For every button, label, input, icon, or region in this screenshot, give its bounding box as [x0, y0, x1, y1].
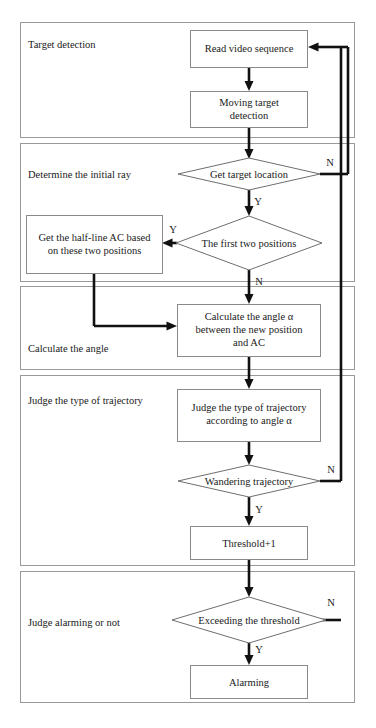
node-label-wandering-trajectory: Wandering trajectory — [205, 476, 294, 487]
branch-label-first-two-positions-no: N — [255, 276, 263, 287]
node-label-half-line-ac-line2: on these two positions — [48, 245, 142, 256]
group-label-calculate-angle: Calculate the angle — [28, 343, 109, 354]
node-label-calculate-angle-line3: and AC — [233, 337, 265, 348]
node-label-calculate-angle-line1: Calculate the angle α — [205, 311, 294, 322]
node-label-exceeding-threshold: Exceeding the threshold — [198, 615, 300, 626]
arrowhead-first-two-positions — [245, 206, 254, 216]
arrowhead-judge-type-trajectory — [245, 379, 254, 389]
node-label-judge-type-trajectory-line1: Judge the type of trajectory — [192, 402, 308, 413]
node-label-alarming: Alarming — [229, 677, 270, 688]
group-label-judge-type-trajectory: Judge the type of trajectory — [28, 395, 144, 406]
arrowhead-read-video-sequence — [308, 43, 319, 52]
node-label-read-video-sequence: Read video sequence — [205, 43, 294, 54]
node-label-moving-target-detection-line1: Moving target — [219, 97, 279, 108]
node-label-calculate-angle-line2: between the new position — [195, 324, 303, 335]
arrowhead-calculate-angle-left — [167, 322, 178, 331]
flowchart-page: Target detection Determine the initial r… — [0, 0, 376, 728]
arrowhead-wandering-trajectory — [245, 455, 254, 465]
arrowhead-alarming — [245, 655, 254, 665]
arrowhead-calculate-angle-top — [245, 294, 254, 304]
branch-label-exceeding-yes: Y — [255, 644, 263, 655]
node-label-judge-type-trajectory-line2: according to angle α — [206, 415, 292, 426]
node-label-first-two-positions: The first two positions — [202, 238, 297, 249]
branch-label-wandering-no: N — [327, 464, 335, 475]
group-label-target-detection: Target detection — [28, 39, 96, 50]
branch-label-get-target-location-yes: Y — [254, 196, 262, 207]
flowchart-svg: Target detection Determine the initial r… — [0, 0, 376, 728]
group-label-determine-initial-ray: Determine the initial ray — [28, 169, 132, 180]
node-label-threshold-plus-one: Threshold+1 — [222, 538, 276, 549]
arrowhead-threshold-plus-one — [245, 516, 254, 526]
branch-label-wandering-yes: Y — [255, 504, 263, 515]
node-label-half-line-ac-line1: Get the half-line AC based — [39, 232, 152, 243]
branch-label-exceeding-no: N — [327, 597, 335, 608]
arrowhead-half-line-ac — [162, 239, 173, 248]
branch-label-first-two-positions-yes: Y — [169, 224, 177, 235]
branch-label-get-target-location-no: N — [326, 157, 334, 168]
arrowhead-exceeding-threshold — [245, 587, 254, 597]
arrowhead-moving-target — [245, 81, 254, 91]
node-label-moving-target-detection-line2: detection — [230, 110, 269, 121]
node-label-get-target-location: Get target location — [210, 169, 289, 180]
group-label-judge-alarming: Judge alarming or not — [28, 617, 120, 628]
